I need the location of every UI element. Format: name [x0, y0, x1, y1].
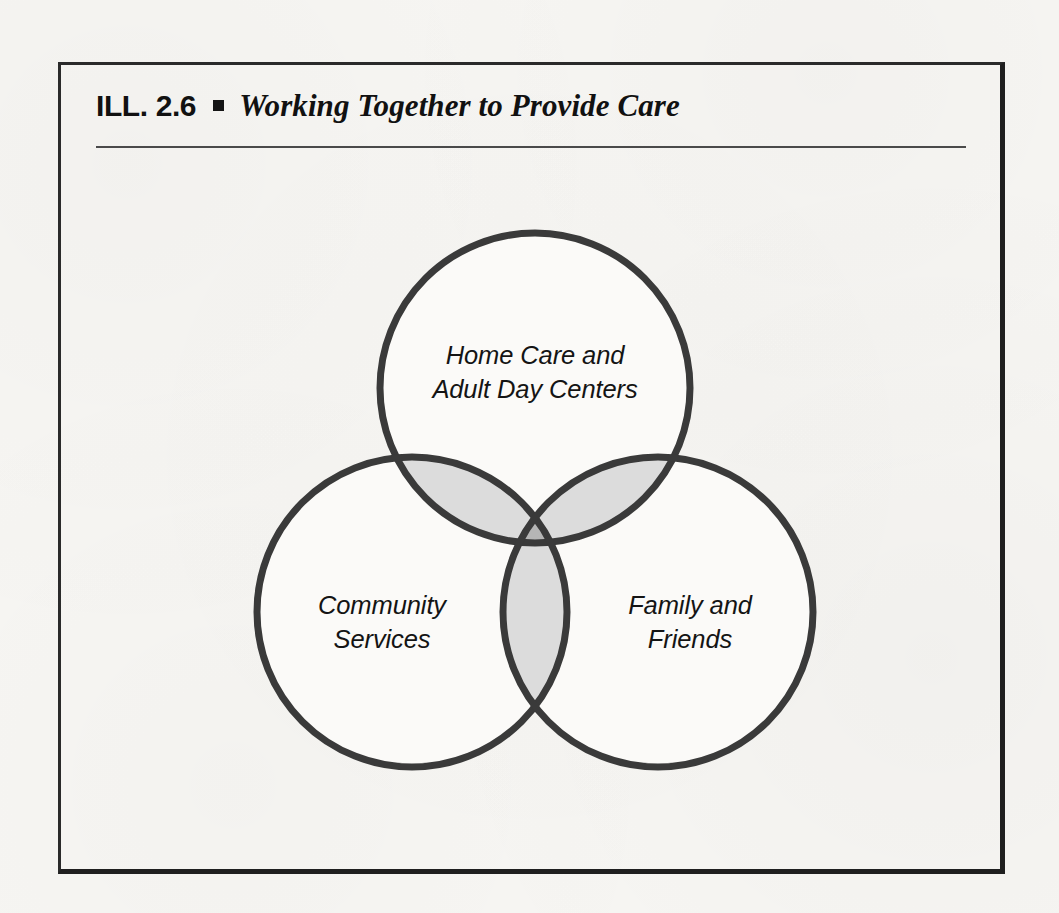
square-bullet-icon [213, 100, 224, 111]
title-divider [96, 146, 966, 148]
figure-frame [58, 62, 1005, 874]
figure-title-row: ILL. 2.6 Working Together to Provide Car… [96, 88, 966, 136]
figure-title: Working Together to Provide Care [239, 88, 680, 124]
figure-number: ILL. 2.6 [96, 89, 196, 123]
